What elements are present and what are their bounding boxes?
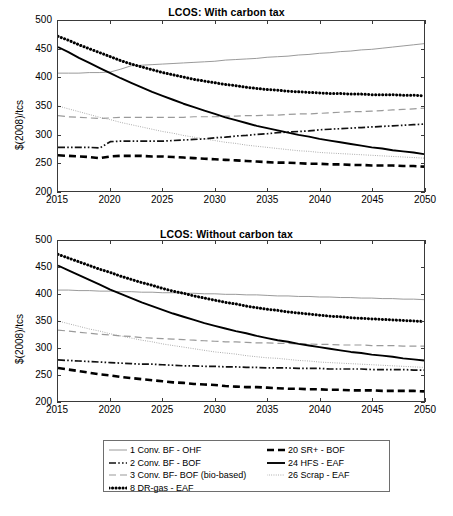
x-tick-mark-top: [372, 240, 373, 244]
y-tick-mark: [57, 192, 61, 193]
legend-item[interactable]: 26 Scrap - EAF: [267, 469, 389, 481]
chart-panel-with-carbon-tax: LCOS: With carbon tax $(2008)/tcs 500450…: [0, 0, 453, 222]
y-tick-mark-right: [421, 348, 425, 349]
x-tick-mark: [215, 398, 216, 402]
x-tick-mark-top: [372, 20, 373, 24]
y-tick-mark-right: [421, 294, 425, 295]
legend-line-swatch-thin-gray-solid: [109, 445, 127, 455]
x-tick-mark-top: [162, 20, 163, 24]
y-tick-mark: [57, 106, 61, 107]
y-tick-mark-right: [421, 375, 425, 376]
y-tick-mark-right: [421, 135, 425, 136]
y-tick-mark: [57, 77, 61, 78]
y-tick-label: 400: [18, 289, 52, 299]
legend-line-swatch-bold-dashed: [267, 445, 285, 455]
y-tick-label: 450: [18, 262, 52, 272]
chart-panel-without-carbon-tax: LCOS: Without carbon tax $(2008)/tcs 500…: [0, 226, 453, 436]
plot-area-bottom: [57, 240, 425, 402]
legend-line-swatch-black-dashdot: [109, 458, 127, 468]
x-tick-label: 2035: [246, 405, 288, 415]
series-line: [58, 36, 424, 96]
x-tick-label: 2030: [194, 405, 236, 415]
y-tick-label: 300: [18, 343, 52, 353]
x-tick-mark: [162, 398, 163, 402]
y-tick-label: 350: [18, 101, 52, 111]
x-tick-mark: [425, 188, 426, 192]
series-line: [58, 321, 424, 367]
x-tick-mark: [215, 188, 216, 192]
legend-column-right: 20 SR+ - BOF24 HFS - EAF26 Scrap - EAF: [267, 444, 389, 482]
x-tick-mark: [425, 398, 426, 402]
x-tick-label: 2050: [404, 405, 446, 415]
y-tick-mark-right: [421, 192, 425, 193]
x-tick-mark-top: [162, 240, 163, 244]
series-line: [58, 360, 424, 370]
legend-line-swatch-light-dotted: [267, 470, 285, 480]
y-tick-mark: [57, 267, 61, 268]
series-line: [58, 368, 424, 391]
y-tick-mark-right: [421, 402, 425, 403]
y-tick-mark-right: [421, 321, 425, 322]
series-line: [58, 155, 424, 166]
legend-line-swatch-black-solid: [267, 458, 285, 468]
x-tick-label: 2020: [89, 195, 131, 205]
x-tick-label: 2035: [246, 195, 288, 205]
y-tick-mark: [57, 49, 61, 50]
y-tick-mark: [57, 375, 61, 376]
y-tick-mark-right: [421, 267, 425, 268]
x-tick-label: 2025: [141, 195, 183, 205]
x-tick-label: 2015: [36, 405, 78, 415]
x-tick-mark-top: [425, 20, 426, 24]
legend-line-swatch-gray-dashed: [109, 470, 127, 480]
y-tick-label: 300: [18, 130, 52, 140]
legend-item[interactable]: 20 SR+ - BOF: [267, 444, 389, 456]
y-tick-label: 350: [18, 316, 52, 326]
plot-lines-bottom: [58, 241, 424, 401]
x-tick-mark: [320, 188, 321, 192]
x-tick-label: 2045: [351, 405, 393, 415]
y-tick-mark: [57, 348, 61, 349]
x-tick-label: 2050: [404, 195, 446, 205]
series-line: [58, 124, 424, 148]
legend-item[interactable]: 1 Conv. BF - OHF: [109, 444, 269, 456]
legend-label: 24 HFS - EAF: [288, 458, 344, 468]
y-tick-mark-right: [421, 106, 425, 107]
x-tick-label: 2030: [194, 195, 236, 205]
y-tick-mark-right: [421, 163, 425, 164]
x-tick-label: 2045: [351, 195, 393, 205]
x-tick-mark-top: [267, 240, 268, 244]
legend-item[interactable]: 8 DR-gas - EAF: [109, 482, 269, 494]
series-line: [58, 254, 424, 321]
y-tick-label: 500: [18, 235, 52, 245]
legend-item[interactable]: 2 Conv. BF - BOF: [109, 457, 269, 469]
legend-label: 8 DR-gas - EAF: [130, 483, 194, 493]
legend-label: 1 Conv. BF - OHF: [130, 445, 201, 455]
y-tick-mark-right: [421, 77, 425, 78]
x-tick-mark-top: [215, 240, 216, 244]
legend-item[interactable]: 24 HFS - EAF: [267, 457, 389, 469]
x-tick-mark: [110, 188, 111, 192]
legend-item[interactable]: 3 Conv. BF- BOF (bio-based): [109, 469, 269, 481]
x-tick-mark: [267, 398, 268, 402]
legend-line-swatch-bold-dotted: [109, 483, 127, 493]
x-tick-mark: [372, 188, 373, 192]
x-tick-mark-top: [57, 20, 58, 24]
y-tick-mark: [57, 321, 61, 322]
y-tick-mark: [57, 163, 61, 164]
x-tick-mark-top: [267, 20, 268, 24]
x-tick-mark-top: [215, 20, 216, 24]
lcos-figure: LCOS: With carbon tax $(2008)/tcs 500450…: [0, 0, 453, 516]
y-tick-mark: [57, 402, 61, 403]
x-tick-mark-top: [320, 20, 321, 24]
x-tick-mark: [162, 188, 163, 192]
x-tick-mark-top: [110, 240, 111, 244]
legend: 1 Conv. BF - OHF2 Conv. BF - BOF3 Conv. …: [103, 440, 390, 492]
x-tick-label: 2040: [299, 195, 341, 205]
x-tick-label: 2015: [36, 195, 78, 205]
series-line: [58, 266, 424, 361]
series-line: [58, 47, 424, 154]
x-tick-mark: [267, 188, 268, 192]
x-tick-mark: [372, 398, 373, 402]
x-tick-mark-top: [425, 240, 426, 244]
x-tick-mark-top: [57, 240, 58, 244]
